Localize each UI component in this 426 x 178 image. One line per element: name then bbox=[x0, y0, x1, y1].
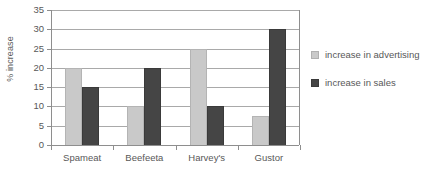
bars-layer bbox=[51, 10, 300, 145]
bar bbox=[127, 106, 144, 145]
x-tick-label: Beefeeta bbox=[109, 153, 179, 163]
y-tick-label: 10 bbox=[4, 101, 44, 111]
bar-chart: % increase 05101520253035 SpameatBeefeet… bbox=[0, 0, 426, 178]
legend-item-label: increase in advertising bbox=[325, 50, 420, 60]
bar-group bbox=[190, 10, 224, 145]
bar-group bbox=[65, 10, 99, 145]
bar bbox=[82, 87, 99, 145]
bar bbox=[207, 106, 224, 145]
y-tick-label: 25 bbox=[4, 44, 44, 54]
x-tick-mark bbox=[176, 145, 177, 150]
legend-item-label: increase in sales bbox=[325, 78, 396, 88]
bar bbox=[144, 68, 161, 145]
bar-group bbox=[127, 10, 161, 145]
x-tick-label: Harvey's bbox=[172, 153, 242, 163]
x-tick-label: Gustor bbox=[234, 153, 304, 163]
legend: increase in advertising increase in sale… bbox=[311, 50, 420, 106]
x-tick-mark bbox=[113, 145, 114, 150]
bar bbox=[65, 68, 82, 145]
legend-item-sales: increase in sales bbox=[311, 78, 420, 88]
legend-swatch-icon bbox=[311, 79, 319, 87]
bar bbox=[190, 49, 207, 145]
x-tick-mark bbox=[300, 145, 301, 150]
x-tick-mark bbox=[51, 145, 52, 150]
x-tick-mark bbox=[238, 145, 239, 150]
bar bbox=[269, 29, 286, 145]
bar bbox=[252, 116, 269, 145]
legend-item-advertising: increase in advertising bbox=[311, 50, 420, 60]
y-tick-label: 5 bbox=[4, 121, 44, 131]
y-tick-label: 30 bbox=[4, 24, 44, 34]
y-tick-label: 20 bbox=[4, 63, 44, 73]
y-tick-label: 0 bbox=[4, 140, 44, 150]
y-tick-label: 15 bbox=[4, 82, 44, 92]
y-tick-label: 35 bbox=[4, 5, 44, 15]
legend-swatch-icon bbox=[311, 51, 319, 59]
bar-group bbox=[252, 10, 286, 145]
x-tick-label: Spameat bbox=[47, 153, 117, 163]
